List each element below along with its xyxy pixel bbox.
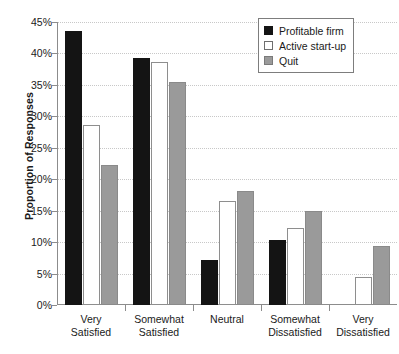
x-axis-label-line: Somewhat <box>261 313 329 326</box>
x-axis-label-line: Neutral <box>193 313 261 326</box>
legend-item-label: Quit <box>279 55 298 67</box>
bar <box>219 201 236 305</box>
x-axis-label-line: Dissatisfied <box>261 326 329 339</box>
x-axis-label-line: Satisfied <box>125 326 193 339</box>
x-axis-label-line: Satisfied <box>57 326 125 339</box>
legend-swatch-active-start-up-icon <box>264 41 273 50</box>
x-axis-label-line: Very <box>329 313 397 326</box>
chart-legend: Profitable firmActive start-upQuit <box>258 18 354 73</box>
x-axis-label: SomewhatSatisfied <box>125 313 193 339</box>
y-tick-label: 45% <box>6 16 52 28</box>
bar <box>287 228 304 305</box>
legend-item: Quit <box>264 53 346 68</box>
bar-group <box>193 22 261 305</box>
y-tick-label: 30% <box>6 110 52 122</box>
legend-item-label: Profitable firm <box>279 25 344 37</box>
y-tick-label: 25% <box>6 142 52 154</box>
bar <box>373 246 390 305</box>
y-tick-label: 5% <box>6 268 52 280</box>
y-tick-label: 40% <box>6 47 52 59</box>
legend-item: Profitable firm <box>264 23 346 38</box>
bar-group <box>57 22 125 305</box>
x-axis-labels: VerySatisfiedSomewhatSatisfiedNeutralSom… <box>57 313 397 339</box>
bar <box>201 260 218 305</box>
bar-group <box>125 22 193 305</box>
legend-item: Active start-up <box>264 38 346 53</box>
bar <box>65 31 82 305</box>
x-axis-separator <box>193 305 194 311</box>
y-tick-label: 10% <box>6 236 52 248</box>
bar <box>305 211 322 305</box>
bar <box>83 125 100 305</box>
y-tick-label: 15% <box>6 205 52 217</box>
x-axis-separator <box>261 305 262 311</box>
bar <box>237 191 254 305</box>
bar <box>355 277 372 305</box>
x-axis-label: VeryDissatisfied <box>329 313 397 339</box>
legend-swatch-quit-icon <box>264 56 273 65</box>
y-tick-label: 20% <box>6 173 52 185</box>
x-axis-label: VerySatisfied <box>57 313 125 339</box>
y-tick-mark <box>52 305 57 306</box>
bar <box>169 82 186 305</box>
x-axis-separator <box>125 305 126 311</box>
x-axis-label: Neutral <box>193 313 261 339</box>
y-tick-label: 35% <box>6 79 52 91</box>
x-axis-label: SomewhatDissatisfied <box>261 313 329 339</box>
bar <box>101 165 118 305</box>
legend-item-label: Active start-up <box>279 40 346 52</box>
bar <box>269 240 286 305</box>
x-axis-label-line: Dissatisfied <box>329 326 397 339</box>
bar-chart: Proportion of Responses 0%5%10%15%20%25%… <box>0 0 399 354</box>
bar <box>133 58 150 305</box>
x-axis-separator <box>329 305 330 311</box>
legend-swatch-profitable-firm-icon <box>264 26 273 35</box>
y-tick-label: 0% <box>6 299 52 311</box>
bar <box>151 62 168 305</box>
x-axis-label-line: Somewhat <box>125 313 193 326</box>
x-axis-label-line: Very <box>57 313 125 326</box>
